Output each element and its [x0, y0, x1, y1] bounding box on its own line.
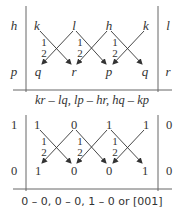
bottom-right-label-bottom: 0 [166, 164, 172, 178]
top-right-label-top: l [166, 18, 170, 33]
step-mark-2: 2 [112, 47, 118, 59]
bottom-left-label-bottom: 0 [11, 164, 17, 178]
top-row-cell: k [34, 18, 40, 33]
bottom-row-cell: 0 [71, 164, 77, 178]
bottom-row-cell: 0 [106, 164, 112, 178]
top-row-cell: k [143, 18, 149, 33]
step-mark-2: 2 [77, 47, 83, 59]
top-caption: kr – lq, lp – hr, hq – kp [35, 93, 149, 107]
bottom-caption: 0 – 0, 0 – 0, 1 – 0 or [001] [21, 195, 162, 208]
bottom-row-cell: 1 [142, 164, 148, 178]
diagram-canvas: h p l r k l h k q r p q 1 2 1 2 1 2 [0, 0, 184, 213]
bottom-left-label-top: 1 [11, 118, 17, 132]
top-row-cell: 1 [34, 118, 40, 132]
step-mark-2: 2 [41, 146, 47, 158]
cross-arrows [40, 130, 144, 163]
bottom-row-cell: q [35, 64, 42, 79]
top-right-label-bottom: r [165, 64, 171, 79]
cross-arrows [40, 31, 144, 64]
bottom-row-cell: 1 [35, 164, 41, 178]
cross-multiplication-diagram: h p l r k l h k q r p q 1 2 1 2 1 2 [0, 0, 184, 213]
top-left-label-bottom: p [10, 64, 18, 79]
top-panel: h p l r k l h k q r p q 1 2 1 2 1 2 [10, 6, 172, 107]
step-mark-2: 2 [112, 146, 118, 158]
bottom-right-label-top: 0 [166, 118, 172, 132]
top-left-label-top: h [11, 18, 18, 33]
step-mark-2: 2 [41, 47, 47, 59]
step-mark-2: 2 [77, 146, 83, 158]
bottom-panel: 1 0 0 0 1 0 1 1 1 0 0 1 1 2 1 2 1 2 [11, 115, 172, 208]
bottom-row-cell: r [71, 64, 77, 79]
top-row-cell: l [72, 18, 76, 33]
bottom-row-cell: p [105, 64, 113, 79]
bottom-row-cell: q [142, 64, 149, 79]
